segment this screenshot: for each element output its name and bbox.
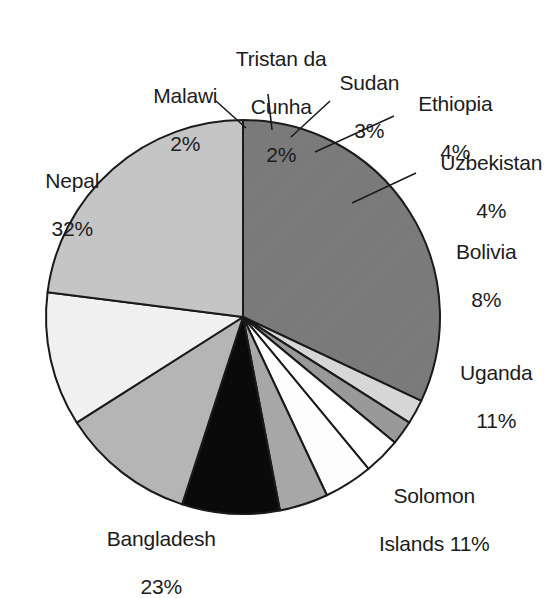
- slice-label-malawi-value: 2%: [170, 132, 200, 155]
- slice-label-nepal-name: Nepal: [45, 169, 99, 192]
- slice-label-bolivia-name: Bolivia: [456, 240, 516, 263]
- slice-label-uganda-name: Uganda: [460, 361, 532, 384]
- slice-label-ethiopia-name: Ethiopia: [418, 92, 492, 115]
- slice-label-sudan-value: 3%: [354, 119, 384, 142]
- slice-label-bangladesh: Bangladesh 23%: [58, 503, 242, 598]
- slice-label-sudan-name: Sudan: [339, 71, 399, 94]
- slice-label-uzbekistan-name: Uzbekistan: [440, 151, 542, 174]
- slice-label-bolivia: Bolivia 8%: [428, 216, 522, 336]
- slice-label-nepal: Nepal 32%: [9, 145, 113, 265]
- slice-label-uganda: Uganda 11%: [433, 337, 537, 457]
- slice-label-sudan: Sudan 3%: [312, 47, 404, 167]
- slice-label-tristan-value: 2%: [266, 143, 296, 166]
- slice-label-uganda-value: 11%: [476, 409, 516, 432]
- slice-label-solomon-value: Islands 11%: [379, 532, 490, 555]
- slice-label-solomon-islands: Solomon Islands 11%: [345, 460, 501, 580]
- slice-label-bangladesh-value: 23%: [141, 575, 182, 598]
- slice-label-solomon-name: Solomon: [394, 484, 475, 507]
- slice-label-bangladesh-name: Bangladesh: [107, 527, 216, 550]
- slice-label-bolivia-value: 8%: [471, 288, 501, 311]
- slice-label-tristan-name-2: Cunha: [251, 95, 312, 118]
- slice-label-nepal-value: 32%: [52, 217, 93, 240]
